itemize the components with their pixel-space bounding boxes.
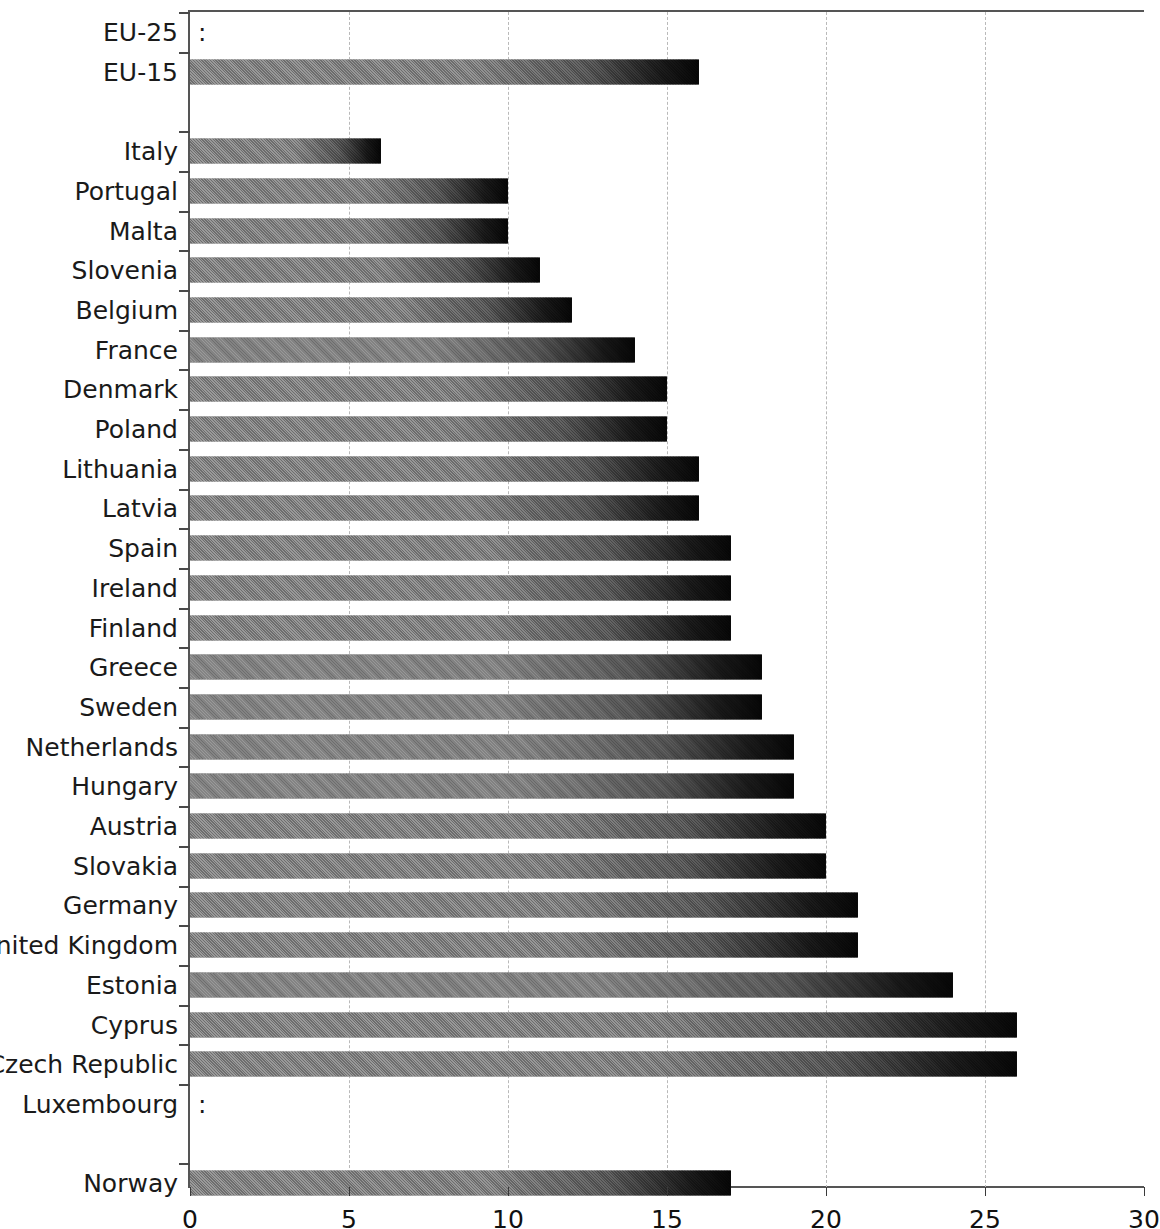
bar-belgium	[190, 297, 572, 322]
category-tick-mark	[179, 925, 190, 927]
category-tick-mark	[179, 12, 190, 14]
bar-ireland	[190, 575, 731, 600]
category-tick-mark	[179, 687, 190, 689]
category-label-latvia: Latvia	[102, 496, 178, 521]
category-label-estonia: Estonia	[86, 972, 178, 997]
bar-cyprus	[190, 1012, 1017, 1037]
bar-italy	[190, 139, 381, 164]
category-label-spain: Spain	[108, 536, 178, 561]
category-label-sweden: Sweden	[79, 694, 178, 719]
bar-netherlands	[190, 734, 794, 759]
bar-chart: EU-25EU-15ItalyPortugalMaltaSloveniaBelg…	[0, 0, 1160, 1229]
x-tick-mark-10	[508, 1187, 509, 1196]
x-tick-label-10: 10	[492, 1205, 524, 1229]
category-label-eu-15: EU-15	[103, 59, 178, 84]
x-tick-mark-15	[667, 1187, 668, 1196]
x-tick-mark-20	[826, 1187, 827, 1196]
category-tick-mark	[179, 727, 190, 729]
bar-austria	[190, 814, 826, 839]
no-data-marker-luxembourg: :	[198, 1091, 206, 1116]
category-tick-mark	[179, 766, 190, 768]
bar-hungary	[190, 774, 794, 799]
category-tick-mark	[179, 489, 190, 491]
category-tick-mark	[179, 369, 190, 371]
category-tick-mark	[179, 568, 190, 570]
category-tick-mark	[179, 250, 190, 252]
bar-greece	[190, 655, 762, 680]
category-tick-mark	[179, 1084, 190, 1086]
bar-portugal	[190, 178, 508, 203]
category-tick-mark	[179, 409, 190, 411]
x-tick-mark-0	[190, 1187, 191, 1196]
bar-slovenia	[190, 258, 540, 283]
category-tick-mark	[179, 528, 190, 530]
category-label-italy: Italy	[124, 139, 178, 164]
category-label-germany: Germany	[63, 893, 178, 918]
bar-eu-15	[190, 59, 699, 84]
x-tick-mark-30	[1144, 1187, 1145, 1196]
category-label-austria: Austria	[90, 814, 178, 839]
category-tick-mark	[179, 171, 190, 173]
category-tick-mark	[179, 1005, 190, 1007]
bar-denmark	[190, 377, 667, 402]
x-tick-label-5: 5	[341, 1205, 357, 1229]
category-label-netherlands: Netherlands	[26, 734, 178, 759]
category-label-luxembourg: Luxembourg	[22, 1091, 178, 1116]
bar-norway	[190, 1171, 731, 1196]
category-label-malta: Malta	[109, 218, 178, 243]
bar-slovakia	[190, 853, 826, 878]
category-label-denmark: Denmark	[63, 377, 178, 402]
x-tick-label-30: 30	[1128, 1205, 1160, 1229]
category-label-eu-25: EU-25	[103, 20, 178, 45]
bar-germany	[190, 893, 858, 918]
category-label-france: France	[95, 337, 178, 362]
x-tick-mark-25	[985, 1187, 986, 1196]
x-tick-label-0: 0	[182, 1205, 198, 1229]
category-tick-mark	[179, 886, 190, 888]
category-tick-mark	[179, 290, 190, 292]
category-axis-labels: EU-25EU-15ItalyPortugalMaltaSloveniaBelg…	[0, 10, 178, 1188]
bar-finland	[190, 615, 731, 640]
category-tick-mark	[179, 131, 190, 133]
category-label-slovenia: Slovenia	[72, 258, 178, 283]
category-label-poland: Poland	[95, 417, 178, 442]
category-tick-mark	[179, 647, 190, 649]
x-tick-label-15: 15	[651, 1205, 683, 1229]
category-tick-mark	[179, 52, 190, 54]
bar-estonia	[190, 972, 953, 997]
category-label-finland: Finland	[89, 615, 178, 640]
category-label-slovakia: Slovakia	[73, 853, 178, 878]
bar-sweden	[190, 694, 762, 719]
category-tick-mark	[179, 608, 190, 610]
x-tick-label-25: 25	[969, 1205, 1001, 1229]
x-tick-mark-5	[349, 1187, 350, 1196]
bar-poland	[190, 417, 667, 442]
category-tick-mark	[179, 211, 190, 213]
bar-france	[190, 337, 635, 362]
category-label-belgium: Belgium	[76, 297, 179, 322]
bar-czech-republic	[190, 1052, 1017, 1077]
category-tick-mark	[179, 846, 190, 848]
x-tick-label-20: 20	[810, 1205, 842, 1229]
category-label-greece: Greece	[89, 655, 178, 680]
category-tick-mark	[179, 806, 190, 808]
category-label-norway: Norway	[83, 1171, 178, 1196]
category-tick-mark	[179, 965, 190, 967]
no-data-marker-eu-25: :	[198, 20, 206, 45]
bar-spain	[190, 536, 731, 561]
bar-latvia	[190, 496, 699, 521]
category-label-czech-republic: Czech Republic	[0, 1052, 178, 1077]
category-tick-mark	[179, 449, 190, 451]
bar-united-kingdom	[190, 933, 858, 958]
category-label-cyprus: Cyprus	[91, 1012, 178, 1037]
category-tick-mark	[179, 330, 190, 332]
category-label-ireland: Ireland	[92, 575, 178, 600]
category-tick-mark	[179, 1044, 190, 1046]
category-label-portugal: Portugal	[74, 178, 178, 203]
category-label-united-kingdom: United Kingdom	[0, 933, 178, 958]
category-tick-mark	[179, 1163, 190, 1165]
bar-lithuania	[190, 456, 699, 481]
bar-malta	[190, 218, 508, 243]
category-label-lithuania: Lithuania	[62, 456, 178, 481]
plot-area: :: 051015202530	[190, 10, 1144, 1188]
